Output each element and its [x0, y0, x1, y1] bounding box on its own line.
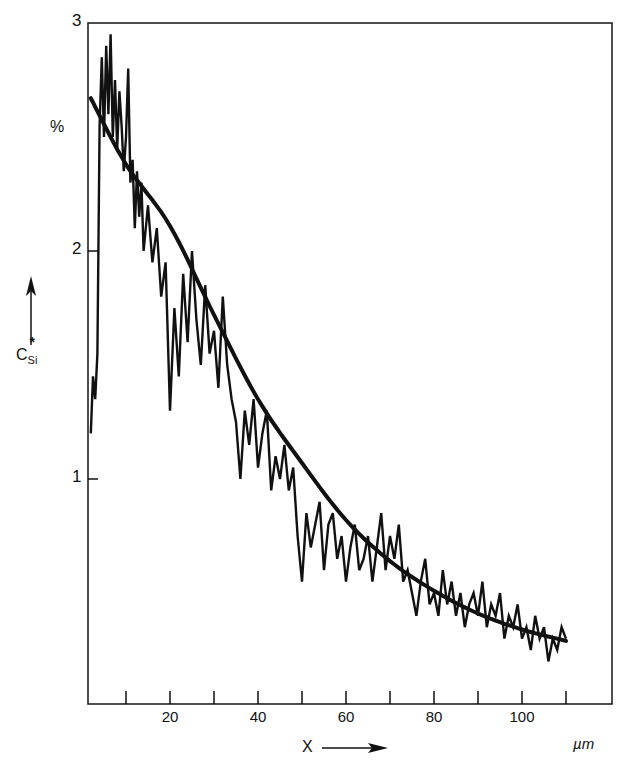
y-tick-label: 3 [72, 11, 81, 31]
x-tick-label: 40 [250, 708, 267, 725]
y-axis-label: C*Si [16, 346, 37, 366]
plot-frame [88, 23, 612, 704]
x-axis-label: X [302, 738, 313, 756]
y-axis-sup: * [30, 334, 35, 350]
x-tick-label: 100 [509, 708, 534, 725]
x-tick-label: 60 [338, 708, 355, 725]
x-tick-label: 80 [426, 708, 443, 725]
y-axis-sub: *Si [28, 346, 38, 363]
fit-curve [91, 98, 566, 641]
y-tick-label: 2 [72, 239, 81, 259]
measured-trace [91, 34, 566, 661]
y-axis-subscript: Si [28, 354, 38, 366]
y-axis-symbol: C [16, 346, 28, 363]
y-unit-label: % [50, 118, 64, 136]
x-tick-label: 20 [162, 708, 179, 725]
y-tick-label: 1 [72, 467, 81, 487]
chart-canvas [0, 0, 627, 768]
x-axis-ticks [126, 691, 566, 704]
x-unit-label: µm [573, 735, 594, 752]
